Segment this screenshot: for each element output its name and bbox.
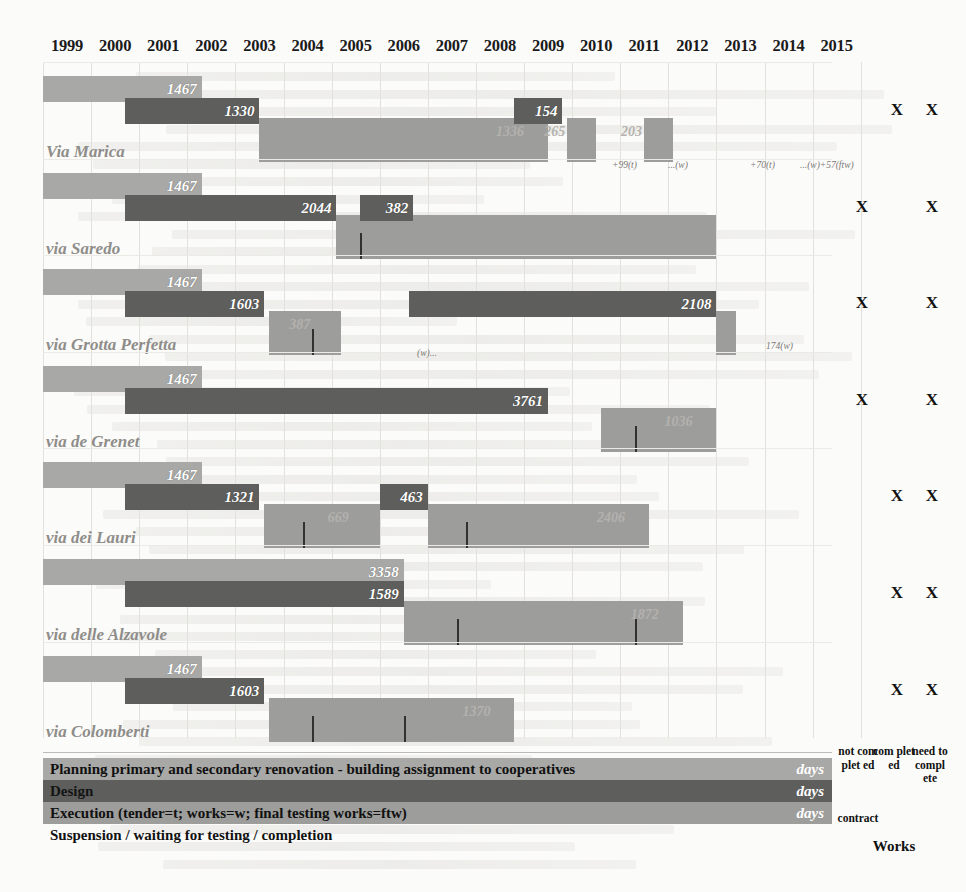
bar-value-label: 2108	[681, 296, 711, 313]
status-mark-completed[interactable]: X	[888, 680, 906, 700]
year-label-2015: 2015	[813, 36, 861, 56]
legend-unit: days	[797, 805, 825, 822]
design-bar-3-0[interactable]: 3761	[125, 388, 548, 414]
bar-value-label: 382	[386, 199, 409, 216]
year-label-2003: 2003	[235, 36, 283, 56]
design-bar-0-0[interactable]: 1330	[125, 98, 260, 124]
year-label-2011: 2011	[620, 36, 668, 56]
execution-annotation: 174(w)	[766, 341, 793, 351]
bar-value-label: 463	[400, 489, 423, 506]
execution-annotation: +99(t)	[612, 160, 637, 170]
execution-bar-0-2[interactable]	[644, 118, 673, 162]
status-mark-need-to-complete[interactable]: X	[923, 100, 941, 120]
status-mark-need-to-complete[interactable]: X	[923, 583, 941, 603]
design-bar-4-0[interactable]: 1321	[125, 484, 260, 510]
bar-value-label: 1467	[167, 274, 197, 291]
execution-bar-2-1[interactable]	[716, 311, 735, 355]
legend-unit: days	[797, 761, 825, 778]
year-label-2007: 2007	[428, 36, 476, 56]
year-label-2010: 2010	[572, 36, 620, 56]
execution-duration-ghost: 1336	[496, 124, 524, 140]
year-label-2000: 2000	[91, 36, 139, 56]
year-label-2001: 2001	[139, 36, 187, 56]
execution-duration-ghost: 203	[621, 124, 642, 140]
design-bar-1-1[interactable]: 382	[360, 195, 413, 221]
execution-annotation: (w)...	[417, 348, 437, 358]
execution-bar-1-0[interactable]	[336, 215, 716, 259]
legend-label: Design	[50, 783, 93, 800]
legend-row-3[interactable]: Suspension / waiting for testing / compl…	[43, 824, 832, 846]
execution-duration-ghost: 1370	[462, 704, 490, 720]
year-label-2014: 2014	[765, 36, 813, 56]
legend-row-2[interactable]: Execution (tender=t; works=w; final test…	[43, 802, 832, 824]
execution-annotation: ...(w)	[668, 160, 688, 170]
row-separator	[43, 159, 832, 160]
bar-value-label: 1321	[224, 489, 254, 506]
year-axis-header: 1999200020012002200320042005200620072008…	[0, 36, 966, 58]
legend-label: Planning primary and secondary renovatio…	[50, 761, 575, 778]
status-mark-need-to-complete[interactable]: X	[923, 390, 941, 410]
gantt-chart: 1999200020012002200320042005200620072008…	[0, 0, 966, 892]
status-mark-not-completed[interactable]: X	[853, 293, 871, 313]
year-label-2002: 2002	[187, 36, 235, 56]
year-label-2013: 2013	[716, 36, 764, 56]
gridline-vertical	[43, 62, 44, 738]
year-label-1999: 1999	[43, 36, 91, 56]
status-mark-not-completed[interactable]: X	[853, 390, 871, 410]
bar-value-label: 2044	[301, 199, 331, 216]
legend-label: Execution (tender=t; works=w; final test…	[50, 805, 407, 822]
legend-row-0[interactable]: Planning primary and secondary renovatio…	[43, 758, 832, 780]
status-mark-completed[interactable]: X	[888, 486, 906, 506]
status-mark-need-to-complete[interactable]: X	[923, 680, 941, 700]
bar-value-label: 1467	[167, 177, 197, 194]
status-mark-need-to-complete[interactable]: X	[923, 293, 941, 313]
legend: Planning primary and secondary renovatio…	[43, 758, 832, 846]
execution-duration-ghost: 2406	[597, 510, 625, 526]
bar-value-label: 1603	[229, 296, 259, 313]
bar-value-label: 1589	[369, 586, 399, 603]
legend-label: Suspension / waiting for testing / compl…	[50, 827, 332, 844]
design-bar-5-0[interactable]: 1589	[125, 581, 404, 607]
legend-unit: days	[797, 783, 825, 800]
contract-sub-header: contract	[836, 812, 880, 824]
legend-top-border	[43, 752, 832, 753]
execution-annotation: ...(w)+57(ftw)	[800, 160, 854, 170]
year-label-2004: 2004	[284, 36, 332, 56]
status-mark-need-to-complete[interactable]: X	[923, 486, 941, 506]
design-bar-0-1[interactable]: 154	[514, 98, 562, 124]
execution-duration-ghost: 387	[289, 317, 310, 333]
design-bar-1-0[interactable]: 2044	[125, 195, 337, 221]
bar-value-label: 1467	[167, 467, 197, 484]
bar-value-label: 1467	[167, 370, 197, 387]
year-label-2008: 2008	[476, 36, 524, 56]
status-mark-completed[interactable]: X	[888, 100, 906, 120]
execution-bar-4-0[interactable]	[264, 504, 379, 548]
project-label-6: via Colomberti	[46, 722, 149, 742]
row-separator	[43, 545, 832, 546]
design-bar-6-0[interactable]: 1603	[125, 678, 264, 704]
execution-duration-ghost: 1036	[664, 414, 692, 430]
year-label-2005: 2005	[332, 36, 380, 56]
execution-duration-ghost: 265	[544, 124, 565, 140]
works-sub-header: Works	[872, 838, 916, 855]
design-bar-4-1[interactable]: 463	[380, 484, 428, 510]
row-separator	[43, 255, 832, 256]
design-bar-2-0[interactable]: 1603	[125, 291, 264, 317]
bar-value-label: 1330	[224, 103, 254, 120]
execution-bar-3-0[interactable]	[601, 408, 716, 452]
row-separator	[43, 642, 832, 643]
status-mark-not-completed[interactable]: X	[853, 197, 871, 217]
status-mark-completed[interactable]: X	[888, 583, 906, 603]
need-to-complete-column-header: need to compl ete	[908, 745, 952, 786]
design-bar-2-1[interactable]: 2108	[409, 291, 717, 317]
bar-value-label: 3358	[369, 564, 399, 581]
row-separator	[43, 448, 832, 449]
execution-bar-0-1[interactable]	[567, 118, 596, 162]
execution-duration-ghost: 669	[328, 510, 349, 526]
bar-value-label: 154	[535, 103, 558, 120]
bar-value-label: 1467	[167, 81, 197, 98]
row-separator	[43, 62, 832, 63]
legend-row-1[interactable]: Designdays	[43, 780, 832, 802]
row-separator	[43, 352, 832, 353]
status-mark-need-to-complete[interactable]: X	[923, 197, 941, 217]
